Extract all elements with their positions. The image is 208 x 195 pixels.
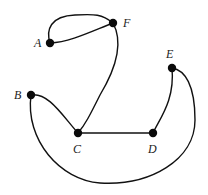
- label-e: E: [165, 47, 174, 61]
- label-f: F: [122, 16, 131, 30]
- edge-a-f-lower: [50, 23, 113, 43]
- node-f: [109, 19, 117, 27]
- edge-a-f-upper: [49, 15, 113, 43]
- edge-b-c: [31, 95, 78, 133]
- node-e: [168, 64, 176, 72]
- node-c: [74, 129, 82, 137]
- node-d: [149, 129, 157, 137]
- graph-diagram: A F B C D E: [0, 0, 208, 195]
- node-a: [46, 39, 54, 47]
- label-a: A: [33, 36, 42, 50]
- edge-b-e: [30, 68, 195, 183]
- node-b: [27, 91, 35, 99]
- edge-f-c: [78, 23, 118, 133]
- label-b: B: [14, 88, 22, 102]
- label-d: D: [147, 142, 157, 156]
- label-c: C: [73, 142, 82, 156]
- edge-d-e: [153, 68, 172, 133]
